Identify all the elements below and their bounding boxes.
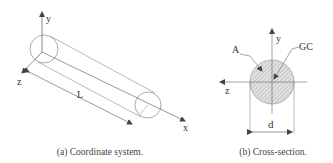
section-z-axis-label: z bbox=[225, 85, 230, 96]
right-radius-line bbox=[140, 105, 148, 114]
x-axis-label: x bbox=[183, 122, 188, 133]
x-axis-arrow bbox=[42, 52, 185, 121]
cylinder-top-edge bbox=[50, 36, 155, 93]
left-radius-line bbox=[35, 52, 42, 60]
z-axis-label: z bbox=[17, 76, 22, 87]
cylinder-bottom-edge bbox=[38, 62, 141, 117]
section-y-axis-label: y bbox=[276, 33, 281, 44]
panel-a-coordinate-system: y x z L bbox=[17, 12, 188, 133]
caption-a: (a) Coordinate system. bbox=[57, 147, 143, 158]
centroid-label: GC bbox=[299, 41, 313, 52]
figure-canvas: y x z L y z A GC bbox=[0, 0, 333, 163]
diameter-label: d bbox=[268, 118, 274, 130]
caption-b: (b) Cross-section. bbox=[239, 147, 307, 158]
cylinder-left-end bbox=[30, 35, 58, 63]
area-label: A bbox=[232, 44, 240, 55]
length-label: L bbox=[77, 89, 83, 100]
panel-b-cross-section: y z A GC d bbox=[220, 29, 313, 134]
y-axis-label: y bbox=[46, 13, 51, 24]
